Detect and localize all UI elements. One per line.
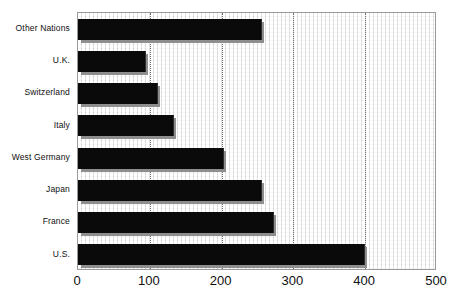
y-axis-label: France xyxy=(43,217,70,226)
bar-fill xyxy=(78,148,224,169)
bar-fill xyxy=(78,115,174,136)
x-tick-label: 100 xyxy=(138,274,160,287)
x-tick-label: 300 xyxy=(282,274,304,287)
x-tick-label: 400 xyxy=(353,274,375,287)
bar xyxy=(78,212,273,233)
bar-row xyxy=(78,142,435,174)
bar-chart: Other NationsU.K.SwitzerlandItalyWest Ge… xyxy=(0,0,455,303)
bar-row xyxy=(78,78,435,110)
x-tick-label: 200 xyxy=(210,274,232,287)
y-axis-label: West Germany xyxy=(12,153,70,162)
bars xyxy=(78,13,435,269)
y-axis-category-labels: Other NationsU.K.SwitzerlandItalyWest Ge… xyxy=(0,12,74,270)
bar-row xyxy=(78,239,435,270)
x-axis-tick-labels: 0100200300400500 xyxy=(77,274,436,294)
y-axis-label: U.K. xyxy=(53,56,70,65)
x-tick-label: 500 xyxy=(425,274,447,287)
bar xyxy=(78,180,261,201)
y-axis-label: Italy xyxy=(54,121,70,130)
x-tick-label: 0 xyxy=(73,274,80,287)
bar xyxy=(78,148,223,169)
y-axis-label: U.S. xyxy=(53,250,70,259)
bar xyxy=(78,244,364,265)
bar-fill xyxy=(78,83,158,104)
bar-fill xyxy=(78,51,146,72)
bar-row xyxy=(78,110,435,142)
bar-fill xyxy=(78,244,365,265)
y-axis-label-row: Italy xyxy=(0,109,74,141)
y-axis-label: Switzerland xyxy=(24,88,70,97)
bar-row xyxy=(78,207,435,239)
y-axis-label: Japan xyxy=(46,185,70,194)
y-axis-label-row: France xyxy=(0,206,74,238)
y-axis-label-row: Other Nations xyxy=(0,12,74,44)
bar-row xyxy=(78,13,435,45)
bar xyxy=(78,19,261,40)
bar-row xyxy=(78,174,435,206)
y-axis-label-row: West Germany xyxy=(0,141,74,173)
y-axis-label-row: U.K. xyxy=(0,44,74,76)
bar-fill xyxy=(78,212,274,233)
bar-fill xyxy=(78,19,262,40)
y-axis-label-row: U.S. xyxy=(0,238,74,270)
plot-area xyxy=(77,12,436,270)
y-axis-label: Other Nations xyxy=(16,24,70,33)
y-axis-label-row: Japan xyxy=(0,173,74,205)
y-axis-label-row: Switzerland xyxy=(0,77,74,109)
bar-fill xyxy=(78,180,262,201)
bar xyxy=(78,83,157,104)
bar xyxy=(78,51,145,72)
bar-row xyxy=(78,45,435,77)
bar xyxy=(78,115,173,136)
